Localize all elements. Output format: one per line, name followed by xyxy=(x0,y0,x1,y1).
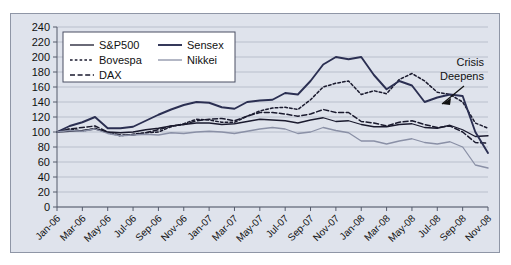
x-tick-label: Nov-08 xyxy=(463,212,494,243)
x-tick-label: Nov-07 xyxy=(311,212,342,243)
y-tick-label: 40 xyxy=(38,171,50,183)
legend-label-bovespa: Bovespa xyxy=(99,54,143,66)
y-tick-label: 200 xyxy=(32,51,50,63)
x-tick-label: Jan-06 xyxy=(33,212,63,242)
x-tick-label: May-06 xyxy=(82,212,114,244)
annotation-line-2: Deepens xyxy=(440,70,485,82)
x-axis-tick-labels: Jan-06Mar-06May-06Jul-06Sep-06Nov-06Jan-… xyxy=(33,212,494,244)
legend-label-sensex: Sensex xyxy=(187,39,224,51)
y-tick-label: 20 xyxy=(38,186,50,198)
y-tick-label: 80 xyxy=(38,141,50,153)
legend-label-s-p500: S&P500 xyxy=(99,39,139,51)
annotation-line-1: Crisis xyxy=(457,56,485,68)
line-chart: 020406080100120140160180200220240 Jan-06… xyxy=(0,0,511,265)
y-tick-label: 0 xyxy=(44,201,50,213)
y-tick-label: 240 xyxy=(32,21,50,33)
y-tick-label: 140 xyxy=(32,96,50,108)
y-tick-label: 100 xyxy=(32,126,50,138)
x-tick-label: May-08 xyxy=(386,212,418,244)
x-tick-label: Sep-06 xyxy=(133,212,164,243)
y-axis-tick-labels: 020406080100120140160180200220240 xyxy=(32,21,50,213)
x-tick-label: Jan-08 xyxy=(337,212,367,242)
legend-label-dax: DAX xyxy=(99,69,122,81)
chart-canvas: 020406080100120140160180200220240 Jan-06… xyxy=(0,0,511,265)
x-tick-label: Sep-08 xyxy=(437,212,468,243)
series-line-dax xyxy=(57,110,488,144)
y-tick-label: 120 xyxy=(32,111,50,123)
x-tick-label: Sep-07 xyxy=(285,212,316,243)
legend-label-nikkei: Nikkei xyxy=(187,54,217,66)
x-tick-label: May-07 xyxy=(234,212,266,244)
y-tick-label: 180 xyxy=(32,66,50,78)
x-axis-ticks xyxy=(57,207,488,211)
y-tick-label: 60 xyxy=(38,156,50,168)
chart-screenshot: 020406080100120140160180200220240 Jan-06… xyxy=(0,0,511,265)
legend: S&P500SensexBovespaNikkeiDAX xyxy=(63,32,235,82)
y-tick-label: 220 xyxy=(32,36,50,48)
x-tick-label: Nov-06 xyxy=(159,212,190,243)
series-line-bovespa xyxy=(57,74,488,136)
y-tick-label: 160 xyxy=(32,81,50,93)
x-tick-label: Jan-07 xyxy=(185,212,215,242)
